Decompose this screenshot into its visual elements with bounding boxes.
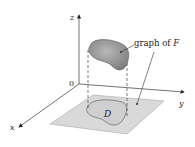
y-axis (79, 84, 184, 92)
region-label: D (103, 109, 111, 119)
surface-label: graph of F (134, 38, 180, 48)
surface-label-prefix: graph of (134, 38, 173, 48)
z-axis-label: z (69, 13, 75, 22)
plane-leader-dot (136, 103, 138, 105)
x-axis-label: x (10, 123, 15, 132)
y-axis-label: y (178, 99, 184, 108)
surface-f (89, 40, 129, 70)
surface-leader-dot (120, 51, 122, 53)
surface-over-region-diagram: z 0 y x graph of F D (0, 0, 195, 147)
origin-label: 0 (69, 79, 74, 88)
surface-label-var: F (172, 38, 180, 48)
plane-leader-line (137, 52, 154, 104)
